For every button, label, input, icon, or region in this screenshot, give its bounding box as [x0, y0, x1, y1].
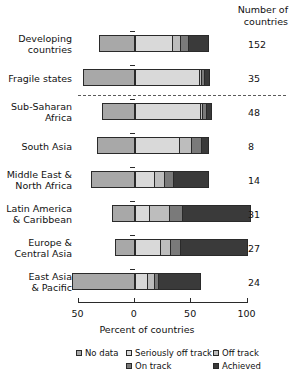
category-label-line1: Latin America — [0, 203, 72, 214]
legend-swatch-icon — [213, 363, 219, 369]
chart-row: Middle East &North Africa14 — [0, 166, 294, 200]
category-label-line2: & Caribbean — [0, 214, 72, 225]
legend-item: No data — [76, 348, 118, 359]
x-axis: Percent of countries 50050100 — [0, 302, 294, 332]
zero-tick-stub — [130, 201, 135, 202]
category-label-line1: Middle East & — [0, 169, 72, 180]
chart-row: Sub-SaharanAfrica48 — [0, 98, 294, 132]
zero-reference-line — [134, 239, 135, 256]
chart-container: Number of countries Developingcountries1… — [0, 0, 294, 379]
legend-swatch-icon — [213, 350, 219, 356]
legend-item: Off track — [213, 348, 259, 359]
bar-segment-seriously-off-track — [135, 274, 147, 289]
bar-segment-no-data — [100, 36, 135, 51]
countries-header-line2: countries — [218, 16, 288, 28]
bar-segment-seriously-off-track — [135, 206, 150, 221]
zero-reference-line — [134, 69, 135, 86]
bar-segment-no-data — [98, 138, 135, 153]
plot-area: Developingcountries152Fragile states35Su… — [0, 30, 294, 302]
country-count: 14 — [248, 175, 290, 186]
category-label: Fragile states — [0, 73, 72, 84]
legend-swatch-icon — [126, 350, 132, 356]
axis-endcap-right — [247, 298, 248, 303]
zero-tick-stub — [130, 31, 135, 32]
axis-baseline — [78, 302, 247, 303]
chart-row: Fragile states35 — [0, 64, 294, 98]
zero-reference-line — [134, 273, 135, 290]
stacked-bar — [91, 171, 209, 188]
category-label-line1: Europe & — [0, 237, 72, 248]
countries-header-line1: Number of — [218, 4, 288, 16]
bar-segment-on-track — [170, 240, 180, 255]
bar-segment-on-track — [169, 206, 183, 221]
legend-item: Seriously off track — [126, 348, 212, 359]
category-label-line1: Fragile states — [0, 73, 72, 84]
bar-segment-no-data — [113, 206, 134, 221]
bar-segment-off-track — [147, 274, 154, 289]
bar-segment-off-track — [179, 138, 191, 153]
category-label: Europe &Central Asia — [0, 237, 72, 259]
zero-reference-line — [134, 137, 135, 154]
axis-tick-label: 0 — [119, 308, 149, 319]
bar-segment-seriously-off-track — [135, 104, 200, 119]
axis-endcap-left — [78, 298, 79, 303]
legend-label: Off track — [222, 348, 259, 358]
chart-legend: No dataSeriously off trackOff trackOn tr… — [0, 348, 294, 378]
axis-tick-label: 100 — [232, 308, 262, 319]
category-label-line1: South Asia — [0, 141, 72, 152]
legend-label: Seriously off track — [135, 348, 212, 358]
legend-label: On track — [135, 361, 171, 371]
bar-segment-seriously-off-track — [135, 172, 154, 187]
country-count: 48 — [248, 107, 290, 118]
category-label-line2: Africa — [0, 112, 72, 123]
chart-row: Europe &Central Asia27 — [0, 234, 294, 268]
legend-label: Achieved — [222, 361, 261, 371]
category-label: Middle East &North Africa — [0, 169, 72, 191]
axis-tick-label: 50 — [175, 308, 205, 319]
bar-segment-seriously-off-track — [135, 70, 199, 85]
group-divider — [78, 95, 286, 96]
zero-tick-stub — [130, 133, 135, 134]
country-count: 24 — [248, 277, 290, 288]
country-count: 27 — [248, 243, 290, 254]
zero-tick-stub — [130, 99, 135, 100]
bar-segment-no-data — [103, 104, 135, 119]
category-label: Latin America& Caribbean — [0, 203, 72, 225]
bar-segment-achieved — [201, 138, 209, 153]
category-label-line2: Central Asia — [0, 248, 72, 259]
x-axis-title: Percent of countries — [0, 324, 294, 335]
country-count: 35 — [248, 73, 290, 84]
bar-segment-achieved — [173, 172, 209, 187]
bar-segment-no-data — [73, 274, 135, 289]
axis-tick-label: 50 — [63, 308, 93, 319]
category-label-line1: Sub-Saharan — [0, 101, 72, 112]
bar-segment-on-track — [164, 172, 173, 187]
bar-segment-achieved — [206, 104, 212, 119]
bar-segment-achieved — [158, 274, 201, 289]
country-count: 8 — [248, 141, 290, 152]
stacked-bar — [83, 69, 210, 86]
category-label: South Asia — [0, 141, 72, 152]
category-label-line2: countries — [0, 44, 72, 55]
bar-segment-off-track — [149, 206, 168, 221]
category-label: Developingcountries — [0, 33, 72, 55]
category-label: East Asia& Pacific — [0, 271, 72, 293]
zero-tick-stub — [130, 167, 135, 168]
zero-reference-line — [134, 171, 135, 188]
bar-segment-achieved — [180, 240, 248, 255]
legend-swatch-icon — [76, 350, 82, 356]
zero-tick-stub — [130, 235, 135, 236]
bar-segment-seriously-off-track — [135, 36, 172, 51]
bar-segment-achieved — [204, 70, 211, 85]
bar-segment-on-track — [191, 138, 201, 153]
axis-tick — [190, 298, 191, 302]
zero-reference-line — [134, 35, 135, 52]
chart-row: Developingcountries152 — [0, 30, 294, 64]
countries-column-header: Number of countries — [218, 4, 288, 27]
bar-segment-off-track — [172, 36, 180, 51]
zero-tick-stub — [130, 65, 135, 66]
country-count: 152 — [248, 39, 290, 50]
category-label: Sub-SaharanAfrica — [0, 101, 72, 123]
zero-tick-stub — [130, 269, 135, 270]
category-label-line1: Developing — [0, 33, 72, 44]
